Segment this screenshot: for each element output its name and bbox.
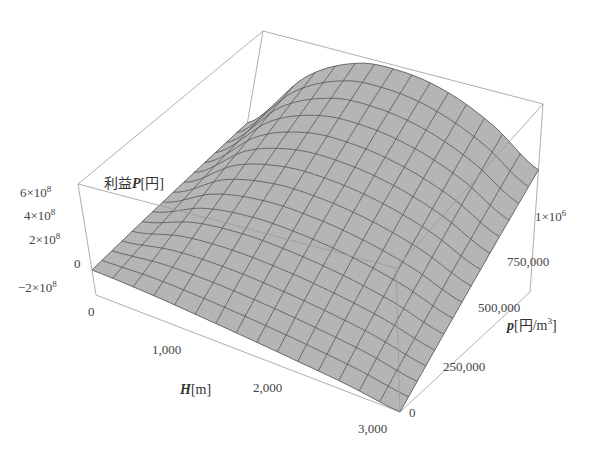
p-tick-3: 750,000	[507, 254, 549, 270]
z-tick-0: 6×108	[20, 184, 51, 201]
z-tick-3: 0	[74, 256, 81, 272]
h-tick-1: 1,000	[152, 342, 181, 358]
z-tick-4: −2×108	[18, 279, 57, 296]
h-axis-label: H[m]	[180, 382, 211, 398]
surface-plot	[0, 0, 590, 460]
z-axis-label: 利益P[円]	[104, 172, 164, 192]
p-tick-0: 0	[409, 405, 416, 421]
box-edge	[78, 184, 96, 295]
h-tick-0: 0	[88, 304, 95, 320]
p-tick-1: 250,000	[443, 359, 485, 375]
z-tick-1: 4×108	[24, 207, 55, 224]
z-tick-2: 2×108	[29, 231, 60, 248]
p-tick-4: 1×106	[535, 208, 566, 225]
p-axis-label: p[円/m3]	[507, 314, 557, 334]
h-tick-2: 2,000	[253, 380, 282, 396]
h-tick-3: 3,000	[358, 421, 387, 437]
